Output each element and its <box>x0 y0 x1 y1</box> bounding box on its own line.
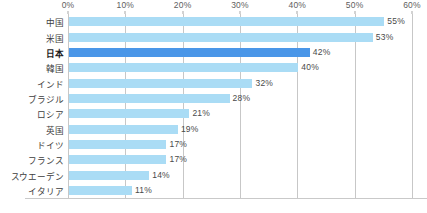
bar-10 <box>69 171 149 180</box>
category-label-7: 英国 <box>0 124 64 136</box>
bar-1 <box>69 33 373 42</box>
bar-8 <box>69 140 166 149</box>
bar-5 <box>69 94 230 103</box>
bar-7 <box>69 125 178 134</box>
x-axis-tick-label: 0% <box>62 0 75 10</box>
x-axis-tick-label: 50% <box>346 0 364 10</box>
category-label-9: フランス <box>0 154 64 166</box>
chart-bottom-border <box>25 198 427 199</box>
x-axis-tick-label: 60% <box>403 0 421 10</box>
x-axis-tick-label: 10% <box>117 0 135 10</box>
horizontal-bar-chart: 0%10%20%30%40%50%60%中国55%米国53%日本42%韓国40%… <box>0 0 427 213</box>
value-label-11: 11% <box>135 185 152 195</box>
bar-11 <box>69 186 132 195</box>
value-label-1: 53% <box>376 32 394 42</box>
value-label-4: 32% <box>255 78 273 88</box>
chart-row <box>0 152 427 167</box>
x-axis-tick-label: 40% <box>289 0 307 10</box>
chart-row <box>0 137 427 152</box>
x-axis-tick-label: 20% <box>174 0 192 10</box>
bar-4 <box>69 79 252 88</box>
category-label-4: インド <box>0 78 64 90</box>
category-label-6: ロシア <box>0 108 64 120</box>
category-label-3: 韓国 <box>0 62 64 74</box>
value-label-5: 28% <box>233 93 251 103</box>
value-label-2: 42% <box>313 47 331 57</box>
value-label-10: 14% <box>152 170 170 180</box>
value-label-6: 21% <box>192 108 210 118</box>
bar-9 <box>69 155 166 164</box>
chart-row <box>0 106 427 121</box>
chart-row <box>0 167 427 182</box>
x-axis-tick-label: 30% <box>231 0 249 10</box>
value-label-8: 17% <box>169 139 187 149</box>
category-label-2: 日本 <box>0 47 64 59</box>
bar-6 <box>69 109 189 118</box>
bar-0 <box>69 17 384 26</box>
category-label-11: イタリア <box>0 185 64 197</box>
chart-row <box>0 183 427 198</box>
category-label-1: 米国 <box>0 32 64 44</box>
bar-2 <box>69 48 310 57</box>
value-label-9: 17% <box>169 154 187 164</box>
category-label-5: ブラジル <box>0 93 64 105</box>
category-label-10: スウエーデン <box>0 170 64 182</box>
category-label-0: 中国 <box>0 16 64 28</box>
chart-row <box>0 121 427 136</box>
value-label-0: 55% <box>387 16 405 26</box>
bar-3 <box>69 63 298 72</box>
value-label-3: 40% <box>301 62 319 72</box>
category-label-8: ドイツ <box>0 139 64 151</box>
value-label-7: 19% <box>181 124 199 134</box>
